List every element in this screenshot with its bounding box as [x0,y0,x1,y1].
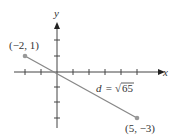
y-axis-arrow-icon [54,22,60,29]
distance-annotation: d = √ 65 [96,82,134,94]
point-b-label: (5, −3) [125,122,155,135]
point-a-marker [23,54,28,59]
distance-variable: d [96,82,102,94]
point-b-marker [135,116,140,121]
coordinate-diagram: x y (−2, 1) (5, −3) d = √ 65 [0,0,170,140]
distance-equals: = [103,82,115,94]
distance-value: 65 [122,82,134,94]
y-axis-label: y [53,7,59,19]
x-axis-label: x [162,66,168,78]
sqrt-icon: √ [115,82,122,94]
point-a-label: (−2, 1) [9,39,39,52]
